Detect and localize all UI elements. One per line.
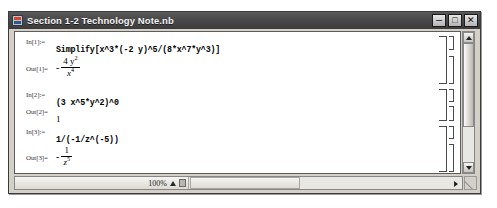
cell-label-out-3: Out[3]=: [26, 154, 48, 162]
cell-content-out-3: - 1 z5: [56, 146, 72, 167]
cell-label-out-2: Out[2]=: [26, 108, 48, 116]
mathematica-notebook-icon: [12, 15, 23, 26]
title-bar[interactable]: Section 1-2 Technology Note.nb – □ ✕: [9, 12, 480, 29]
status-bar: 100%: [14, 176, 477, 190]
cell-bracket-out-1[interactable]: [449, 56, 454, 84]
cell-bracket-in-3[interactable]: [449, 126, 454, 139]
output-expression-1: - 4 y2 x4: [56, 57, 80, 78]
resize-grip[interactable]: [464, 176, 477, 190]
scroll-right-button[interactable]: [450, 178, 461, 189]
close-icon: ✕: [465, 15, 477, 26]
scroll-down-button[interactable]: [463, 162, 474, 173]
cell-bracket-in-1[interactable]: [449, 36, 454, 50]
client-area: In[1]:= Simplify[x^3*(-2 y)^5/(8*x^7*y^3…: [11, 31, 478, 191]
cell-bracket-in-2[interactable]: [449, 89, 454, 102]
horizontal-scroll-thumb[interactable]: [190, 177, 300, 189]
vertical-scroll-thumb[interactable]: [463, 43, 474, 127]
fraction-denominator-1: x4: [65, 69, 76, 78]
triangle-right-icon: [454, 181, 458, 187]
zoom-control[interactable]: 100%: [15, 177, 189, 189]
minus-sign-3: -: [56, 151, 59, 162]
close-button[interactable]: ✕: [464, 14, 478, 27]
cell-bracket-out-3[interactable]: [449, 144, 454, 172]
input-expression-1: Simplify[x^3*(-2 y)^5/(8*x^7*y^3)]: [56, 45, 220, 54]
fraction-1: 4 y2 x4: [61, 57, 79, 78]
minimize-icon: –: [433, 15, 445, 26]
cell-stack: In[1]:= Simplify[x^3*(-2 y)^5/(8*x^7*y^3…: [15, 32, 460, 173]
fraction-denominator-3: z5: [62, 158, 73, 167]
maximize-icon: □: [449, 15, 461, 26]
cell-bracket-out-2[interactable]: [449, 106, 454, 121]
notebook-canvas[interactable]: In[1]:= Simplify[x^3*(-2 y)^5/(8*x^7*y^3…: [14, 31, 461, 174]
zoom-dropdown-icon[interactable]: [179, 179, 186, 187]
cell-content-in-2[interactable]: (3 x^5*y^2)^0: [56, 91, 119, 109]
minus-sign-1: -: [56, 62, 59, 73]
triangle-up-icon: [466, 36, 472, 40]
window-controls: – □ ✕: [432, 14, 478, 27]
fraction-3: 1 z5: [61, 146, 72, 167]
cell-label-in-1: In[1]:=: [26, 38, 45, 46]
scroll-up-button[interactable]: [463, 32, 474, 43]
cell-content-out-1: - 4 y2 x4: [56, 57, 80, 78]
cell-label-in-2: In[2]:=: [26, 91, 45, 99]
cell-content-out-2: 1: [56, 108, 61, 126]
input-expression-3: 1/(-1/z^(-5)): [56, 135, 119, 144]
cell-group-bracket-2[interactable]: [439, 89, 447, 121]
input-expression-2: (3 x^5*y^2)^0: [56, 98, 119, 107]
cell-group-bracket-1[interactable]: [439, 36, 447, 84]
vertical-scrollbar[interactable]: [462, 31, 475, 174]
zoom-stepper-up-icon[interactable]: [170, 181, 176, 186]
notebook-window: Section 1-2 Technology Note.nb – □ ✕ In[…: [8, 11, 481, 194]
cell-label-in-3: In[3]:=: [26, 128, 45, 136]
cell-bracket-column: [434, 32, 460, 173]
cell-content-in-1[interactable]: Simplify[x^3*(-2 y)^5/(8*x^7*y^3)]: [56, 38, 220, 56]
maximize-button[interactable]: □: [448, 14, 462, 27]
triangle-down-icon: [466, 166, 472, 170]
window-title: Section 1-2 Technology Note.nb: [27, 15, 432, 26]
cell-content-in-3[interactable]: 1/(-1/z^(-5)): [56, 128, 119, 146]
output-value-2: 1: [56, 114, 61, 124]
horizontal-scrollbar[interactable]: 100%: [14, 176, 463, 190]
minimize-button[interactable]: –: [432, 14, 446, 27]
zoom-level-label: 100%: [148, 179, 167, 188]
output-expression-3: - 1 z5: [56, 146, 72, 167]
cell-group-bracket-3[interactable]: [439, 126, 447, 172]
cell-label-out-1: Out[1]=: [26, 65, 48, 73]
